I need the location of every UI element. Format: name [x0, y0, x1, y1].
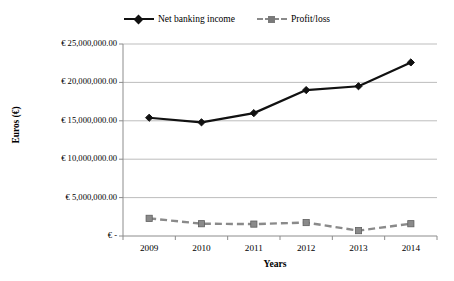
x-axis-tick-label: 2012: [280, 243, 332, 253]
x-axis-tick-label: 2013: [332, 243, 384, 253]
x-axis-tick-label: 2009: [123, 243, 175, 253]
x-axis-title: Years: [120, 258, 430, 269]
x-axis-tick-label: 2011: [228, 243, 280, 253]
data-point-marker: [407, 59, 414, 66]
y-axis-tick-label: € 10,000,000.00: [20, 154, 117, 163]
data-point-marker: [303, 219, 309, 225]
data-point-marker: [198, 221, 204, 227]
data-point-marker: [355, 228, 361, 234]
y-axis-tick-label: € 15,000,000.00: [20, 116, 117, 125]
data-point-marker: [146, 114, 153, 121]
data-point-marker: [355, 83, 362, 90]
chart-figure: Net banking income Profit/loss € -€ 5,00…: [0, 0, 454, 281]
y-axis-tick-label: € 5,000,000.00: [20, 193, 117, 202]
series-line-2: [149, 218, 411, 230]
data-point-marker: [250, 110, 257, 117]
y-axis-tick-label: € 20,000,000.00: [20, 77, 117, 86]
gridlines: [123, 44, 437, 198]
data-point-marker: [303, 86, 310, 93]
data-series-layer: [146, 59, 415, 234]
data-point-marker: [408, 221, 414, 227]
data-point-marker: [146, 215, 152, 221]
x-axis-tick-label: 2010: [175, 243, 227, 253]
series-line-1: [149, 62, 411, 122]
y-axis-title: Euros (€): [11, 95, 21, 155]
y-axis-tick-label: € 25,000,000.00: [20, 39, 117, 48]
data-point-marker: [198, 119, 205, 126]
y-axis-tick-label: € -: [20, 231, 117, 240]
x-axis-tick-label: 2014: [385, 243, 437, 253]
data-point-marker: [251, 221, 257, 227]
